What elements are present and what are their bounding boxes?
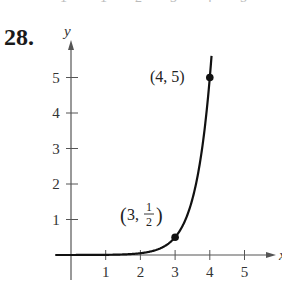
chart: 12345 12345 y x (4, 5) ( 3, 1 2 ) <box>0 0 282 299</box>
x-tick-label: 5 <box>241 264 249 280</box>
y-tick-label: 5 <box>52 70 60 86</box>
x-axis-arrow-icon <box>266 252 276 258</box>
svg-text:1: 1 <box>146 200 152 214</box>
exponential-curve <box>55 56 211 255</box>
y-tick-label: 3 <box>52 141 60 157</box>
y-tick-label: 2 <box>52 176 60 192</box>
svg-text:2: 2 <box>146 215 152 229</box>
y-axis-label: y <box>62 23 71 39</box>
svg-text:): ) <box>156 204 163 227</box>
svg-text:(: ( <box>120 204 127 227</box>
point-3-half <box>171 233 179 241</box>
x-tick-label: 1 <box>102 264 110 280</box>
point-label-3-half: ( 3, 1 2 ) <box>120 200 163 229</box>
y-tick-label: 1 <box>52 212 60 228</box>
x-tick-label: 4 <box>206 264 214 280</box>
point-label-4-5: (4, 5) <box>150 68 185 86</box>
y-tick-label: 4 <box>52 105 60 121</box>
svg-text:3,: 3, <box>127 206 139 223</box>
x-tick-label: 2 <box>137 264 145 280</box>
x-tick-label: 3 <box>171 264 179 280</box>
x-axis-label: x <box>278 247 282 263</box>
y-axis-arrow-icon <box>68 40 74 50</box>
y-ticks: 12345 <box>52 70 78 228</box>
point-4-5 <box>206 74 214 82</box>
